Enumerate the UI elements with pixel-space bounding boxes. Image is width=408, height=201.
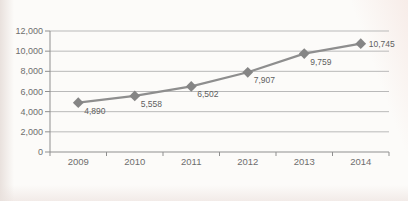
scanned-page: 02,0004,0006,0008,00010,00012,0002009201… [0, 0, 408, 201]
y-tick-label: 0 [38, 147, 43, 157]
data-point-marker [186, 81, 197, 92]
y-tick-label: 4,000 [20, 107, 43, 117]
data-point-label: 6,502 [197, 89, 219, 99]
y-tick-label: 8,000 [20, 66, 43, 76]
line-chart: 02,0004,0006,0008,00010,00012,0002009201… [0, 0, 408, 201]
data-point-marker [299, 48, 310, 59]
data-series-line [78, 44, 361, 103]
x-tick-label: 2009 [68, 156, 89, 167]
data-point-marker [242, 67, 253, 78]
y-tick-label: 6,000 [20, 87, 43, 97]
x-tick-label: 2012 [237, 156, 258, 167]
data-point-label: 7,907 [254, 75, 276, 85]
y-tick-label: 2,000 [20, 127, 43, 137]
data-point-label: 10,745 [369, 39, 395, 49]
data-point-label: 4,890 [84, 106, 106, 116]
x-tick-label: 2013 [294, 156, 315, 167]
x-tick-label: 2010 [124, 156, 145, 167]
x-tick-label: 2011 [181, 156, 201, 167]
data-point-marker [355, 38, 366, 49]
y-tick-label: 12,000 [15, 26, 43, 36]
data-point-marker [73, 97, 84, 108]
data-point-label: 5,558 [141, 99, 163, 109]
data-point-marker [129, 91, 140, 102]
x-tick-label: 2014 [350, 156, 371, 167]
data-point-label: 9,759 [310, 57, 332, 67]
y-tick-label: 10,000 [15, 46, 43, 56]
